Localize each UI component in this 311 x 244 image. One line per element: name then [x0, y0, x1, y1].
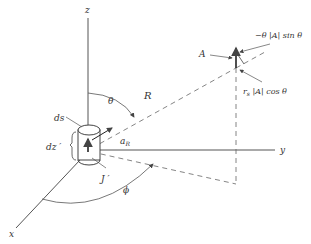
- ds-label: ds: [54, 113, 65, 123]
- ds-leader: [66, 117, 82, 127]
- R-label: R: [143, 90, 152, 101]
- A-leader: [210, 55, 232, 58]
- dz-label: dz ′: [46, 142, 61, 152]
- theta-component-label: −θ |A| sin θ: [255, 31, 302, 40]
- theta-label: θ: [108, 96, 114, 106]
- R-extension: [236, 52, 265, 68]
- y-axis-label: y: [279, 145, 286, 155]
- A-component-line: [236, 52, 244, 64]
- r-component-leader: [240, 70, 262, 82]
- aR-label: aR: [120, 136, 130, 147]
- z-axis-label: z: [84, 5, 90, 15]
- phi-arc: [42, 164, 153, 203]
- diagram-canvas: z y x R θ ϕ ds dz ′ J ′ aR A −θ |A| sin …: [0, 0, 311, 244]
- dz-brace: [70, 132, 76, 160]
- theta-component-leader: [240, 44, 270, 52]
- xy-projection: [92, 152, 236, 184]
- R-line: [92, 68, 236, 148]
- x-axis: [16, 160, 80, 228]
- phi-label: ϕ: [123, 185, 129, 195]
- r-component-label: rs |A| cos θ: [243, 87, 287, 97]
- J-label: J ′: [99, 174, 110, 184]
- current-element-cylinder: [78, 125, 100, 165]
- x-axis-label: x: [9, 229, 14, 239]
- A-label: A: [198, 49, 206, 59]
